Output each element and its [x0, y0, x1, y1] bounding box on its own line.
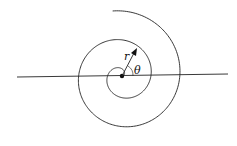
angle-label: θ — [134, 64, 141, 77]
radius-label: r — [124, 50, 130, 63]
spiral-figure: r θ — [0, 0, 237, 146]
angle-arc — [128, 66, 133, 76]
spiral-curve — [78, 11, 180, 127]
spiral-diagram: r θ — [0, 0, 237, 146]
radius-arrowhead-icon — [131, 48, 137, 56]
